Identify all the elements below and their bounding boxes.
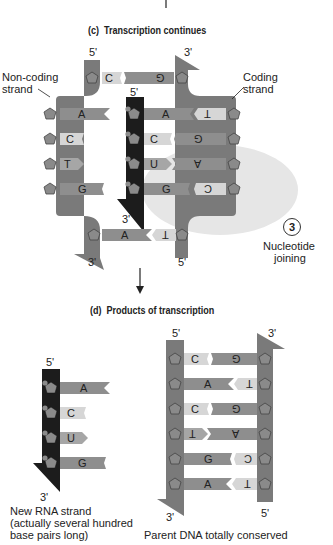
step-label-2: joining bbox=[274, 252, 306, 264]
noncoding-label-1: Non-coding bbox=[2, 71, 58, 83]
dna-right-base: G bbox=[232, 403, 241, 415]
rna-caption-3: base pairs long) bbox=[10, 529, 88, 541]
coding-label-1: Coding bbox=[243, 71, 278, 83]
noncoding-base: A bbox=[78, 108, 85, 120]
rna-base: C bbox=[150, 133, 158, 145]
product-dna-left-top-prime: 5' bbox=[172, 327, 180, 339]
product-rna-bottom-prime: 3' bbox=[40, 491, 48, 503]
noncoding-base: G bbox=[78, 183, 87, 195]
top-pair-right-base: G bbox=[156, 72, 165, 84]
product-dna-right-bottom-prime: 5' bbox=[261, 507, 269, 519]
dna-left-base: G bbox=[204, 453, 213, 465]
panel-d-letter: (d) bbox=[90, 304, 102, 316]
noncoding-top-prime: 5' bbox=[89, 46, 97, 58]
rna-base: A bbox=[162, 108, 169, 120]
noncoding-base: T bbox=[64, 158, 71, 170]
product-rna-base: U bbox=[67, 432, 75, 444]
noncoding-label-2: strand bbox=[2, 83, 33, 95]
panel-c-letter: (c) bbox=[88, 24, 99, 36]
rna-bottom-prime: 3' bbox=[122, 213, 130, 225]
product-dna-left-bottom-prime: 3' bbox=[166, 511, 174, 523]
product-rna-base: C bbox=[67, 407, 75, 419]
rna-base: U bbox=[150, 158, 158, 170]
rna-base: G bbox=[162, 183, 171, 195]
coding-top-prime: 3' bbox=[184, 46, 192, 58]
rna-caption-2: (actually several hundred bbox=[10, 517, 133, 529]
dna-caption: Parent DNA totally conserved bbox=[144, 529, 288, 541]
rna-top-prime: 5' bbox=[130, 86, 138, 98]
bottom-pair-right-base: T bbox=[162, 229, 169, 241]
dna-left-base: C bbox=[191, 403, 199, 415]
coding-label-2: strand bbox=[243, 83, 274, 95]
coding-base: C bbox=[204, 183, 212, 195]
dna-right-base: T bbox=[246, 378, 253, 390]
noncoding-bottom-prime: 3' bbox=[88, 256, 96, 268]
step-number-badge: 3 bbox=[283, 218, 301, 236]
product-rna-base: G bbox=[78, 457, 87, 469]
product-dna-right-top-prime: 3' bbox=[268, 327, 276, 339]
dna-right-base: A bbox=[232, 428, 239, 440]
bottom-pair-left-base: A bbox=[121, 229, 128, 241]
dna-right-base: G bbox=[232, 353, 241, 365]
product-rna-base: A bbox=[80, 382, 87, 394]
step-label-1: Nucleotide bbox=[263, 240, 315, 252]
dna-left-base: A bbox=[204, 478, 211, 490]
dna-left-base: C bbox=[191, 353, 199, 365]
product-dna-pairs bbox=[184, 353, 257, 490]
coding-base: T bbox=[204, 108, 211, 120]
panel-c-title: (c)Transcription continues bbox=[88, 24, 206, 36]
top-pair-left-base: C bbox=[105, 72, 113, 84]
product-rna-top-prime: 5' bbox=[46, 356, 54, 368]
dna-left-base: T bbox=[189, 428, 196, 440]
coding-base: G bbox=[194, 133, 203, 145]
dna-left-base: A bbox=[204, 378, 211, 390]
dna-right-base: T bbox=[244, 478, 251, 490]
rna-caption-1: New RNA strand bbox=[10, 505, 91, 517]
product-dna-left-strand bbox=[157, 340, 184, 516]
panel-d-title: (d)Products of transcription bbox=[90, 304, 214, 316]
dna-right-base: C bbox=[244, 453, 252, 465]
coding-bottom-prime: 5' bbox=[178, 256, 186, 268]
noncoding-base: C bbox=[66, 133, 74, 145]
coding-base: A bbox=[194, 158, 201, 170]
